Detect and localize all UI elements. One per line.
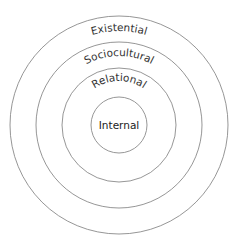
layer-label-sociocultural: Sociocultural	[82, 46, 156, 66]
diagram-canvas: Existential Sociocultural Relational Int…	[0, 0, 237, 245]
concentric-layers-diagram: Existential Sociocultural Relational Int…	[0, 0, 237, 245]
layer-label-relational: Relational	[89, 71, 149, 90]
layer-label-existential: Existential	[89, 21, 148, 37]
layer-label-internal: Internal	[99, 119, 139, 131]
